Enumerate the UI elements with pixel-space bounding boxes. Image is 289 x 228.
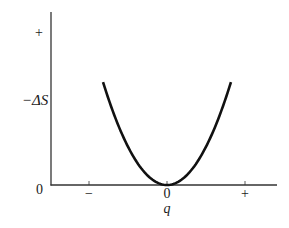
x-tick-label: 0: [164, 186, 171, 201]
x-tick-label: +: [241, 186, 249, 201]
x-tick-label: −: [85, 186, 93, 201]
y-tick-label: +: [35, 25, 43, 40]
y-tick-label: 0: [36, 182, 43, 197]
y-axis-label: −ΔS: [22, 92, 49, 108]
chart: −0+0+ −ΔS q: [0, 0, 289, 228]
x-axis-label: q: [164, 201, 171, 216]
series-curve: [103, 82, 231, 185]
